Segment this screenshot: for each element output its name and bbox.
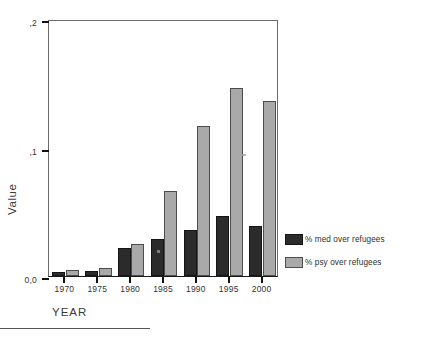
- x-axis-tick-label-1995: 1995: [219, 284, 239, 294]
- bar-2000-med: [249, 226, 262, 276]
- y-axis-tick-label: 0,0: [25, 275, 37, 285]
- x-axis-tick: [96, 277, 98, 283]
- x-axis-title: YEAR: [52, 306, 87, 318]
- bar-1990-psy: [197, 126, 210, 276]
- legend-label: % psy over refugees: [305, 258, 382, 267]
- chart-legend: % med over refugees% psy over refugees: [285, 234, 421, 280]
- bar-group: [82, 21, 115, 276]
- x-axis: 1970197519801985199019952000: [48, 277, 278, 303]
- x-axis-tick: [261, 277, 263, 283]
- bar-1980-med: [118, 248, 131, 276]
- legend-item-med[interactable]: % med over refugees: [285, 234, 421, 245]
- plot-area: 0,0,1,2: [48, 20, 278, 277]
- legend-item-psy[interactable]: % psy over refugees: [285, 257, 421, 268]
- bar-group: [180, 21, 213, 276]
- scan-speckle-1: [242, 154, 246, 156]
- y-axis-tick: ,2: [42, 21, 49, 23]
- bar-group: [246, 21, 279, 276]
- y-axis-tick: ,1: [42, 150, 49, 152]
- x-axis-tick-label-1980: 1980: [120, 284, 140, 294]
- bar-1985-med: [151, 239, 164, 276]
- legend-swatch-psy-icon: [285, 257, 303, 268]
- x-axis-tick: [228, 277, 230, 283]
- x-axis-tick-label-1975: 1975: [87, 284, 107, 294]
- bar-group: [49, 21, 82, 276]
- x-axis-tick-label-1970: 1970: [55, 284, 75, 294]
- y-axis-title: Value: [6, 183, 18, 215]
- bar-chart-figure: Value 0,0,1,2 19701975198019851990199520…: [0, 0, 423, 337]
- y-axis-tick-label: ,1: [30, 146, 38, 156]
- x-axis-tick-label-2000: 2000: [252, 284, 272, 294]
- x-axis-tick-label-1985: 1985: [153, 284, 173, 294]
- bar-1995-psy: [230, 88, 243, 276]
- bar-1995-med: [216, 216, 229, 276]
- bar-1990-med: [184, 230, 197, 276]
- x-axis-tick-label-1990: 1990: [186, 284, 206, 294]
- bar-group: [148, 21, 181, 276]
- bar-1985-psy: [164, 191, 177, 276]
- scan-speckle-2: [157, 250, 160, 253]
- bar-2000-psy: [263, 101, 276, 276]
- bar-1975-med: [85, 271, 98, 276]
- x-axis-tick: [63, 277, 65, 283]
- x-axis-tick: [162, 277, 164, 283]
- x-axis-tick: [129, 277, 131, 283]
- bar-1970-med: [52, 272, 65, 276]
- legend-label: % med over refugees: [305, 235, 385, 244]
- bar-1970-psy: [66, 270, 79, 276]
- bar-group: [213, 21, 246, 276]
- legend-swatch-med-icon: [285, 234, 303, 245]
- footer-rule: [0, 328, 150, 329]
- y-axis-tick-label: ,2: [30, 18, 38, 28]
- bar-1975-psy: [99, 268, 112, 276]
- bar-group: [115, 21, 148, 276]
- x-axis-tick: [195, 277, 197, 283]
- bar-1980-psy: [131, 244, 144, 276]
